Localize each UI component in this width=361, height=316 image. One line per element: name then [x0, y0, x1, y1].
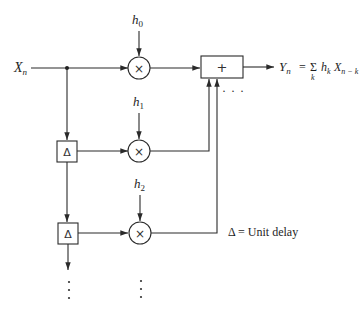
coef-label-h1: h1	[133, 94, 144, 111]
multiply-icon: ×	[135, 227, 145, 241]
multiplier-2: ×	[129, 222, 151, 244]
delay-block-2: Δ	[58, 223, 78, 244]
svg-text:hk: hk	[321, 60, 331, 76]
delta-icon: Δ	[64, 228, 72, 241]
coef-label-h0: h0	[132, 12, 144, 29]
svg-text:Xn − k: Xn − k	[333, 60, 359, 76]
vertical-ellipsis-right	[140, 280, 142, 298]
plus-icon: +	[217, 60, 228, 75]
delta-icon: Δ	[63, 146, 71, 159]
fir-filter-diagram: Xn h0 × + Yn = Σ k hk Xn − k · · · Δ h1 …	[0, 0, 361, 316]
svg-text:=: =	[299, 60, 306, 74]
delay-block-1: Δ	[57, 141, 77, 162]
coef-label-h2: h2	[134, 176, 145, 193]
multiplier-0: ×	[128, 57, 150, 79]
more-inputs-ellipsis: · · ·	[222, 84, 245, 98]
svg-text:Σ: Σ	[310, 60, 317, 74]
input-label: Xn	[13, 60, 28, 77]
multiply-icon: ×	[134, 62, 144, 76]
adder-block: +	[201, 56, 243, 78]
output-equation: Yn = Σ k hk Xn − k	[279, 59, 359, 82]
product-line-1	[150, 79, 209, 151]
svg-text:Yn: Yn	[279, 59, 291, 76]
product-line-2	[151, 79, 217, 233]
legend-unit-delay: Δ = Unit delay	[228, 225, 298, 239]
vertical-ellipsis-left	[68, 281, 70, 299]
svg-text:k: k	[311, 73, 315, 82]
multiply-icon: ×	[134, 145, 144, 159]
multiplier-1: ×	[128, 140, 150, 162]
